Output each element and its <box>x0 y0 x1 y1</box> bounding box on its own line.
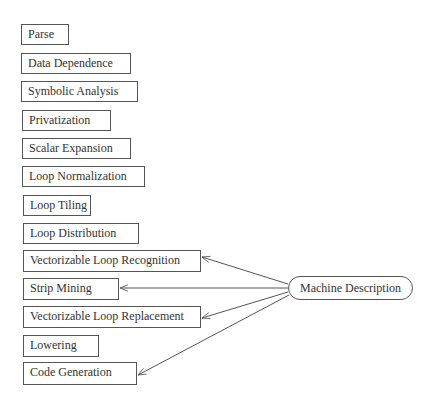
diagram-canvas: Parse Data Dependence Symbolic Analysis … <box>0 0 442 407</box>
edge-to-vectorizable-loop-replacement <box>202 292 288 318</box>
edge-to-vectorizable-loop-recognition <box>202 257 288 284</box>
edge-to-code-generation <box>138 295 289 375</box>
edge-layer <box>0 0 442 407</box>
